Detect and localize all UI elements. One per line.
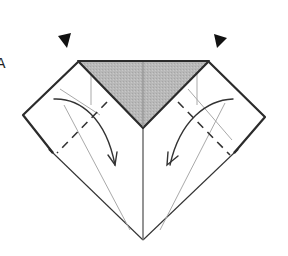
body-right-edge — [143, 153, 234, 240]
left-fold-arrow-icon — [54, 99, 115, 165]
right-fold-arrow-icon — [170, 99, 233, 165]
edge-glyph: A — [0, 55, 6, 71]
origami-diagram: A — [0, 0, 288, 256]
body-left-edge — [53, 153, 143, 240]
right-pointer-icon — [214, 34, 227, 48]
left-pointer-icon — [58, 33, 71, 48]
